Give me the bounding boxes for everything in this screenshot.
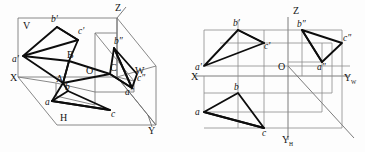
label-axis-yh-group: Y H	[282, 134, 293, 147]
label-a-right: a	[195, 107, 200, 117]
left-axonometric-diagram: V H W Z X Y a' b' c' A B C O a b c a″ b″…	[0, 0, 182, 152]
right-triangle-frontal-projection	[204, 30, 264, 66]
label-a: a	[45, 97, 50, 107]
right-orthographic-diagram: Z X Y W Y H O a' b' c' b″ c″ a″ a b c	[182, 0, 365, 152]
label-point-B: B	[67, 49, 74, 60]
label-axis-z: Z	[115, 2, 121, 13]
technical-drawing-figure: V H W Z X Y a' b' c' A B C O a b c a″ b″…	[0, 0, 365, 152]
label-plane-h: H	[60, 112, 67, 123]
h-helper-5	[18, 77, 56, 83]
label-point-A: A	[56, 73, 64, 84]
label-axis-yh-sub: H	[289, 141, 293, 147]
label-c-right: c	[262, 128, 267, 138]
label-c-dprime-right: c″	[343, 33, 352, 43]
label-c-prime: c'	[78, 26, 85, 36]
triangle-frontal-abc-prime	[204, 30, 264, 66]
label-c: c	[111, 109, 116, 119]
label-origin-O: O	[86, 65, 93, 76]
label-b-prime: b'	[51, 14, 59, 24]
triangle-horizontal-abc	[204, 93, 264, 128]
triangle-a-b-c-lower	[52, 91, 110, 110]
label-a-dprime: a″	[125, 87, 135, 97]
label-b: b	[65, 82, 70, 92]
label-axis-x: X	[10, 72, 18, 83]
right-axes	[194, 17, 354, 140]
label-b-right: b	[234, 82, 239, 92]
left-triangle-horizontal-projection	[52, 83, 110, 110]
label-a-prime-right: a'	[195, 62, 203, 72]
bprime-cprime-edge	[238, 30, 264, 43]
label-a-dprime-right: a″	[317, 62, 327, 72]
label-axis-x-right: X	[191, 71, 199, 82]
label-axis-yw-group: Y W	[344, 72, 357, 85]
right-triangle-horizontal-projection	[204, 93, 264, 128]
label-origin-O-right: O	[278, 61, 285, 72]
label-b-dprime-right: b″	[297, 19, 307, 29]
label-c-dprime: c″	[137, 73, 146, 83]
label-b-prime-right: b'	[233, 18, 241, 28]
label-axis-yw-sub: W	[351, 79, 357, 85]
bprime-cprime-link	[57, 27, 78, 40]
label-point-C: C	[110, 62, 117, 73]
right-grid	[204, 20, 350, 128]
label-b-dprime: b″	[114, 36, 124, 46]
label-axis-y: Y	[148, 125, 155, 136]
label-plane-v: V	[23, 20, 31, 31]
label-axis-z-right: Z	[293, 5, 299, 16]
label-a-prime: a'	[12, 54, 20, 64]
h-plane-quad	[18, 77, 156, 125]
y-axis-segment	[117, 77, 156, 125]
label-c-prime-right: c'	[264, 41, 271, 51]
